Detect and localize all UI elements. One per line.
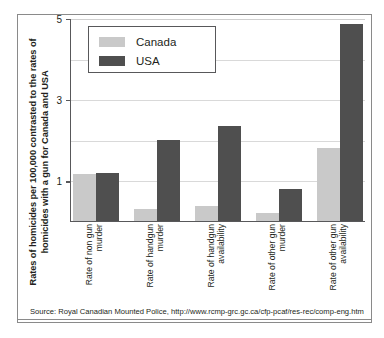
source-note: Source: Royal Canadian Mounted Police, h… bbox=[30, 307, 364, 316]
bar-canada bbox=[134, 209, 157, 221]
x-axis-label: Rate of non gun murder bbox=[85, 224, 105, 302]
bar-usa bbox=[157, 140, 180, 221]
legend-swatch-canada-icon bbox=[99, 37, 125, 47]
bar-canada bbox=[195, 206, 218, 221]
legend-item-usa: USA bbox=[99, 51, 215, 70]
bar-canada bbox=[73, 174, 96, 221]
y-tick-label-3: 3 bbox=[22, 95, 62, 106]
x-axis-label: Rate of handgun murder bbox=[146, 224, 166, 302]
bar-canada bbox=[317, 148, 340, 221]
bar-usa bbox=[218, 126, 241, 221]
bar-group bbox=[317, 19, 363, 221]
bar-group bbox=[256, 19, 302, 221]
bar-usa bbox=[340, 24, 363, 221]
x-axis-label: Rate of handgun availability bbox=[207, 224, 227, 302]
legend: Canada USA bbox=[88, 26, 216, 73]
y-tick-label-1: 1 bbox=[22, 176, 62, 187]
x-axis-category-labels: Rate of non gun murderRate of handgun mu… bbox=[70, 224, 365, 304]
bar-canada bbox=[256, 213, 279, 221]
bar-usa bbox=[279, 189, 302, 221]
legend-label-usa: USA bbox=[136, 55, 160, 67]
legend-swatch-usa-icon bbox=[99, 56, 125, 66]
source-divider bbox=[18, 319, 371, 320]
bar-usa bbox=[96, 173, 119, 221]
x-axis-label: Rate of other gun availability bbox=[329, 224, 349, 302]
legend-label-canada: Canada bbox=[136, 36, 176, 48]
bar-chart-figure: Rates of homicides per 100,000 contraste… bbox=[0, 0, 384, 338]
legend-item-canada: Canada bbox=[99, 32, 215, 51]
y-tick-label-5: 5 bbox=[22, 14, 62, 25]
x-axis-label: Rate of other gun murder bbox=[268, 224, 288, 302]
